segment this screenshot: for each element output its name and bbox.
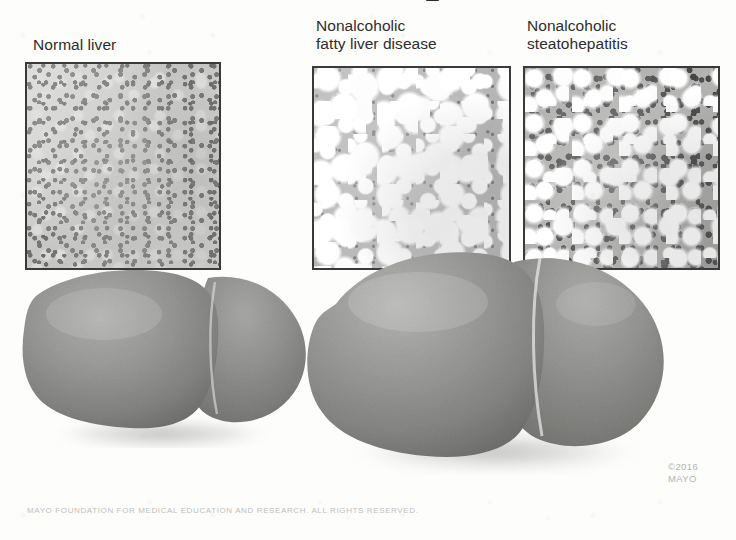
caption-nonalcoholic-steatohepatitis: Nonalcoholic steatohepatitis (527, 17, 628, 52)
enlarged-fatty-liver-organ (300, 240, 680, 475)
caption-normal-liver: Normal liver (33, 36, 116, 54)
copyright-notice: ©2016 MAYO (668, 461, 698, 485)
fatty-liver-highlight-right (556, 282, 636, 326)
normal-liver-highlight (46, 288, 162, 340)
tissue-micrograph-steatohepatitis (525, 68, 718, 268)
cropped-title-fragment (426, 0, 439, 1)
caption-nonalcoholic-fatty-liver-disease: Nonalcoholic fatty liver disease (316, 17, 437, 52)
footer-credit-line: MAYO FOUNDATION FOR MEDICAL EDUCATION AN… (27, 506, 419, 515)
fatty-liver-highlight-left (348, 272, 488, 332)
liver-disease-comparison-figure: Normal liver Nonalcoholic fatty liver di… (0, 0, 736, 540)
normal-liver-organ (12, 248, 322, 448)
tissue-micrograph-steatosis (314, 68, 509, 268)
tissue-micrograph-normal (27, 64, 219, 268)
histology-panel-normal-liver (25, 62, 221, 270)
